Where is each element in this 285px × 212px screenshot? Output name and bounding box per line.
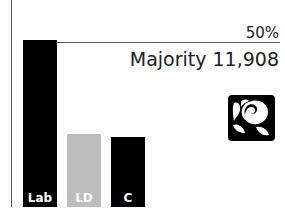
bar-label-ld: LD [67, 191, 101, 205]
y-axis-line [11, 0, 12, 207]
majority-label: Majority 11,908 [130, 48, 279, 70]
fifty-percent-label: 50% [246, 24, 279, 42]
labour-rose-icon [228, 95, 275, 141]
bar-lab: Lab [23, 40, 57, 207]
bar-label-lab: Lab [23, 191, 57, 205]
fifty-percent-line [57, 42, 280, 43]
bar-ld: LD [67, 134, 101, 207]
bar-c: C [111, 137, 145, 207]
bar-label-c: C [111, 191, 145, 205]
